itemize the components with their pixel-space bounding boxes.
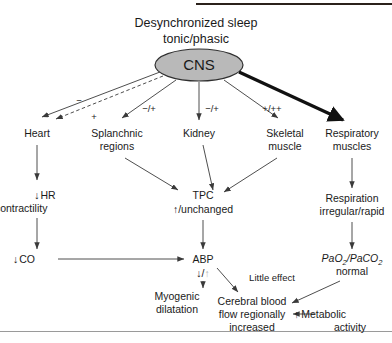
blood-gas-paco2: /PaCO [346, 252, 379, 264]
edge-label-heart-excitatory: + [91, 111, 97, 122]
node-abp-state: ↓/↑ [196, 267, 209, 279]
edge-kidney-to-tpc [203, 145, 213, 190]
node-metabolic-activity-line1: ↑Metabolic [294, 308, 346, 320]
up-arrow-icon-abp: ↑ [204, 267, 209, 279]
edge-skeletal-muscle-to-tpc [224, 158, 277, 192]
node-skeletal-muscle-line2: muscle [268, 140, 301, 152]
effect-heart-rate-label: HR [41, 189, 57, 201]
node-tpc-state: ↑/unchanged [173, 203, 233, 215]
edge-label-skeletal-muscle: +/++ [262, 103, 282, 114]
edge-abp-to-cerebral-blood-flow [217, 268, 238, 292]
diagram-canvas: Desynchronized sleep tonic/phasic CNS − … [0, 0, 392, 343]
edge-label-kidney: −/+ [205, 103, 219, 114]
node-tpc-label: TPC [193, 189, 214, 201]
node-myogenic-dilatation-line1: Myogenic [155, 290, 200, 302]
figure-title-line1: Desynchronized sleep [135, 16, 258, 30]
node-myogenic-dilatation-line2: dilatation [156, 303, 198, 315]
edge-label-splanchnic: −/+ [142, 103, 156, 114]
edge-cns-to-respiratory-muscles [239, 72, 343, 120]
node-cerebral-blood-flow-line1: Cerebral blood [218, 295, 287, 307]
node-skeletal-muscle-line1: Skeletal [266, 127, 303, 139]
node-blood-gases-state: normal [336, 265, 368, 277]
node-cerebral-blood-flow-line2: flow regionally [219, 308, 286, 320]
node-kidney: Kidney [183, 127, 216, 139]
down-arrow-icon-co: ↓ [13, 253, 18, 265]
node-tpc-state-label: /unchanged [178, 203, 233, 215]
cns-node-label: CNS [183, 56, 215, 73]
edge-blood-gases-to-cerebral-blood-flow [292, 281, 340, 303]
effect-contractility: ↓contractility [0, 202, 48, 214]
node-respiratory-muscles-line2: muscles [333, 140, 372, 152]
figure-title-line2: tonic/phasic [163, 32, 229, 46]
node-splanchnic-regions-line1: Splanchnic [91, 127, 142, 139]
effect-heart-rate: ↓HR [34, 189, 56, 201]
node-respiration-line1: Respiration [325, 192, 378, 204]
effect-cardiac-output: ↓CO [13, 253, 35, 265]
effect-contractility-label: contractility [0, 202, 48, 214]
node-heart: Heart [24, 127, 50, 139]
node-metabolic-activity-label: Metabolic [301, 308, 346, 320]
node-abp-label: ABP [192, 253, 213, 265]
blood-gas-subscript-2: 2 [377, 258, 383, 267]
down-arrow-icon-hr: ↓ [34, 189, 39, 201]
edge-label-heart-inhibitory: − [76, 95, 82, 106]
node-respiration-line2: irregular/rapid [320, 205, 385, 217]
up-arrow-icon-metabolic: ↑ [294, 308, 299, 320]
node-splanchnic-regions-line2: regions [100, 140, 134, 152]
edge-label-little-effect: Little effect [249, 272, 295, 283]
effect-cardiac-output-label: CO [19, 253, 35, 265]
node-metabolic-activity-line2: activity [334, 321, 367, 333]
blood-gas-pao2: PaO [322, 252, 343, 264]
node-respiratory-muscles-line1: Respiratory [325, 127, 379, 139]
node-cerebral-blood-flow-line3: increased [229, 321, 275, 333]
edge-splanchnic-to-tpc [125, 158, 178, 190]
